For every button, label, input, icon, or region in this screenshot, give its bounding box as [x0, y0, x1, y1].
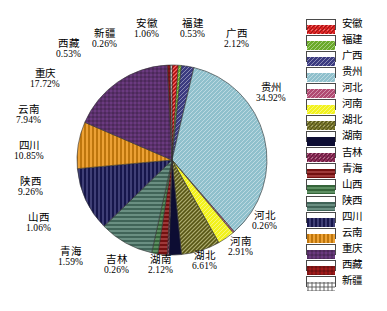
legend-swatch: [306, 196, 336, 207]
callout-percent: 9.26%: [18, 187, 43, 197]
legend-swatch: [306, 19, 336, 30]
legend-swatch: [306, 147, 336, 158]
legend-swatch: [306, 179, 336, 190]
legend-item-贵州[interactable]: 贵州: [306, 64, 384, 80]
legend-label: 福建: [342, 35, 362, 46]
legend-item-安徽[interactable]: 安徽: [306, 16, 384, 32]
legend-swatch: [306, 115, 336, 126]
legend-label: 青海: [342, 164, 362, 175]
legend-swatch: [306, 83, 336, 94]
legend-swatch: [306, 51, 336, 62]
callout-percent: 1.06%: [26, 223, 51, 233]
callout-shanxi: 山西 1.06%: [26, 212, 51, 234]
callout-guizhou: 贵州 34.92%: [256, 82, 286, 104]
callout-henan: 河南 2.91%: [228, 236, 253, 258]
callout-percent: 2.12%: [148, 265, 173, 275]
legend-item-青海[interactable]: 青海: [306, 161, 384, 177]
legend-swatch: [306, 260, 336, 271]
callout-jilin: 吉林 0.26%: [104, 254, 129, 276]
legend-label: 山西: [342, 180, 362, 191]
callout-name: 西藏: [56, 38, 81, 49]
callout-percent: 0.26%: [104, 265, 129, 275]
callout-name: 吉林: [104, 254, 129, 265]
callout-percent: 0.53%: [56, 49, 81, 59]
legend-item-广西[interactable]: 广西: [306, 48, 384, 64]
legend-item-福建[interactable]: 福建: [306, 32, 384, 48]
callout-guangxi: 广西 2.12%: [224, 28, 249, 50]
legend-label: 湖南: [342, 131, 362, 142]
legend-label: 湖北: [342, 115, 362, 126]
callout-anhui: 安徽 1.06%: [134, 18, 159, 40]
legend-label: 重庆: [342, 244, 362, 255]
callout-name: 贵州: [256, 82, 286, 93]
legend-label: 新疆: [342, 276, 362, 287]
callout-fujian: 福建 0.53%: [180, 18, 205, 40]
callout-name: 湖南: [148, 254, 173, 265]
callout-yunnan: 云南 7.94%: [16, 104, 41, 126]
legend-item-重庆[interactable]: 重庆: [306, 241, 384, 257]
callout-percent: 17.72%: [30, 79, 60, 89]
callout-percent: 34.92%: [256, 93, 286, 103]
callout-percent: 0.53%: [180, 29, 205, 39]
callout-name: 安徽: [134, 18, 159, 29]
legend-item-湖南[interactable]: 湖南: [306, 129, 384, 145]
callout-percent: 7.94%: [16, 115, 41, 125]
legend-item-云南[interactable]: 云南: [306, 225, 384, 241]
legend-item-新疆[interactable]: 新疆: [306, 274, 384, 290]
callout-name: 河南: [228, 236, 253, 247]
legend-label: 陕西: [342, 196, 362, 207]
callout-hunan: 湖南 2.12%: [148, 254, 173, 276]
callout-sichuan: 四川 10.85%: [14, 140, 44, 162]
legend-item-西藏[interactable]: 西藏: [306, 257, 384, 273]
callout-xinjiang: 新疆 0.26%: [92, 28, 117, 50]
callout-name: 山西: [26, 212, 51, 223]
callout-name: 云南: [16, 104, 41, 115]
callout-hebei: 河北 0.26%: [252, 210, 277, 232]
callout-percent: 0.26%: [252, 221, 277, 231]
callout-qinghai: 青海 1.59%: [58, 246, 83, 268]
callout-name: 重庆: [30, 68, 60, 79]
legend-swatch: [306, 212, 336, 223]
legend-item-吉林[interactable]: 吉林: [306, 145, 384, 161]
pie-slice-group: [77, 65, 267, 255]
legend-label: 四川: [342, 212, 362, 223]
callout-percent: 1.06%: [134, 29, 159, 39]
legend-swatch: [306, 35, 336, 46]
legend-swatch: [306, 67, 336, 78]
callout-name: 湖北: [192, 250, 217, 261]
legend-swatch: [306, 131, 336, 142]
legend-item-河北[interactable]: 河北: [306, 80, 384, 96]
callout-chongqing: 重庆 17.72%: [30, 68, 60, 90]
legend-item-山西[interactable]: 山西: [306, 177, 384, 193]
legend-swatch: [306, 276, 336, 287]
callout-name: 陕西: [18, 176, 43, 187]
legend-label: 河北: [342, 83, 362, 94]
legend-item-河南[interactable]: 河南: [306, 96, 384, 112]
legend: 安徽福建广西贵州河北河南湖北湖南吉林青海山西陕西四川云南重庆西藏新疆: [306, 16, 384, 290]
legend-label: 西藏: [342, 260, 362, 271]
callout-name: 广西: [224, 28, 249, 39]
legend-swatch: [306, 228, 336, 239]
callout-name: 新疆: [92, 28, 117, 39]
callout-shaanxi: 陕西 9.26%: [18, 176, 43, 198]
legend-swatch: [306, 244, 336, 255]
legend-label: 云南: [342, 228, 362, 239]
callout-percent: 0.26%: [92, 39, 117, 49]
legend-label: 河南: [342, 99, 362, 110]
legend-item-四川[interactable]: 四川: [306, 209, 384, 225]
callout-percent: 1.59%: [58, 257, 83, 267]
callout-name: 青海: [58, 246, 83, 257]
callout-percent: 10.85%: [14, 151, 44, 161]
callout-hubei: 湖北 6.61%: [192, 250, 217, 272]
legend-label: 贵州: [342, 67, 362, 78]
legend-item-陕西[interactable]: 陕西: [306, 193, 384, 209]
callout-xizang: 西藏 0.53%: [56, 38, 81, 60]
legend-item-湖北[interactable]: 湖北: [306, 113, 384, 129]
callout-name: 福建: [180, 18, 205, 29]
legend-label: 安徽: [342, 19, 362, 30]
callout-percent: 6.61%: [192, 261, 217, 271]
callout-percent: 2.91%: [228, 247, 253, 257]
pie-chart-figure: 新疆 0.26% 安徽 1.06% 福建 0.53% 广西 2.12% 贵州 3…: [0, 0, 387, 311]
legend-swatch: [306, 99, 336, 110]
legend-swatch: [306, 163, 336, 174]
